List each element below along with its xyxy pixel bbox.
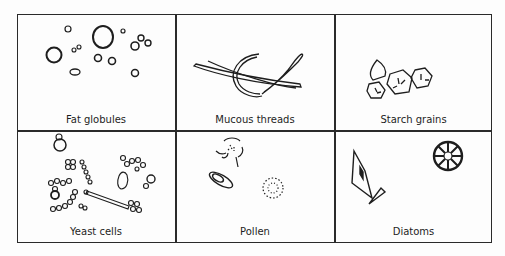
panel-label: Pollen — [176, 226, 334, 237]
panel-starch-grains: Starch grains — [335, 14, 492, 130]
mucous-threads-icon — [176, 14, 334, 130]
fat-globules-icon — [17, 14, 175, 130]
panel-label: Diatoms — [335, 226, 492, 237]
panel-label: Yeast cells — [17, 226, 175, 237]
panel-label: Fat globules — [17, 114, 175, 125]
panel-label: Starch grains — [335, 114, 492, 125]
panel-yeast-cells: Yeast cells — [17, 131, 175, 243]
starch-grains-icon — [335, 14, 492, 130]
panel-label: Mucous threads — [176, 114, 334, 125]
panel-pollen: Pollen — [176, 131, 334, 243]
panel-diatoms: Diatoms — [335, 131, 492, 243]
panel-mucous-threads: Mucous threads — [176, 14, 334, 130]
panel-fat-globules: Fat globules — [17, 14, 175, 130]
